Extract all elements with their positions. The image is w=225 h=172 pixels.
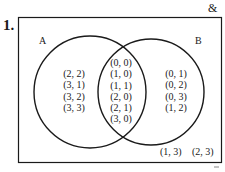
list-item: (3, 3)	[57, 102, 91, 113]
problem-number: 1.	[3, 17, 14, 34]
list-item: (1, 1)	[104, 80, 138, 91]
set-b-label: B	[195, 35, 202, 46]
list-item: (0, 3)	[159, 91, 193, 102]
list-item: (3, 0)	[104, 113, 138, 124]
region-b-only: (0, 1) (0, 2) (0, 3) (1, 2)	[159, 68, 193, 113]
region-a-and-b: (0, 0) (1, 0) (1, 1) (2, 0) (2, 1) (3, 0…	[104, 57, 138, 125]
list-item: (0, 2)	[159, 79, 193, 90]
list-item: (3, 2)	[57, 91, 91, 102]
list-item: (2, 0)	[104, 91, 138, 102]
universal-set-symbol: &	[208, 1, 217, 16]
list-item: (2, 1)	[104, 102, 138, 113]
list-item: (1, 0)	[104, 68, 138, 79]
list-item: (2, 2)	[57, 68, 91, 79]
list-item: (1, 2)	[159, 102, 193, 113]
list-item: (0, 1)	[159, 68, 193, 79]
list-item: (0, 0)	[104, 57, 138, 68]
region-a-only: (2, 2) (3, 1) (3, 2) (3, 3)	[57, 68, 91, 113]
outside-element: (2, 3)	[192, 146, 214, 157]
set-a-label: A	[39, 35, 46, 46]
list-item: (3, 1)	[57, 79, 91, 90]
outside-element: (1, 3)	[160, 146, 182, 157]
